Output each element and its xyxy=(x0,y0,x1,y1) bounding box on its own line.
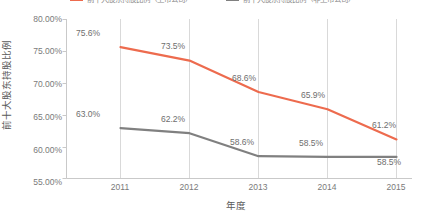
x-tick-label: 2014 xyxy=(307,182,347,192)
y-axis-spine xyxy=(63,19,67,179)
data-label-orange: 68.6% xyxy=(232,73,256,83)
plot-area xyxy=(0,0,424,217)
x-tick-label: 2011 xyxy=(100,182,140,192)
data-label-gray: 58.5% xyxy=(377,157,401,167)
data-label-orange: 65.9% xyxy=(301,90,325,100)
x-axis-title: 年度 xyxy=(66,198,406,212)
data-label-gray: 58.5% xyxy=(299,138,323,148)
x-tick-label: 2015 xyxy=(376,182,416,192)
data-label-orange: 73.5% xyxy=(161,41,185,51)
data-label-gray: 63.0% xyxy=(76,109,100,119)
data-label-orange: 75.6% xyxy=(76,28,100,38)
data-label-gray: 58.6% xyxy=(230,137,254,147)
data-label-gray: 62.2% xyxy=(161,114,185,124)
x-tick-label: 2013 xyxy=(238,182,278,192)
x-tick-label: 2012 xyxy=(169,182,209,192)
data-label-orange: 61.2% xyxy=(372,120,396,130)
line-chart: 前十大股东持股比例（上市公司） 前十大股东持股比例（非上市公司） 前十大股东持股… xyxy=(0,0,424,217)
